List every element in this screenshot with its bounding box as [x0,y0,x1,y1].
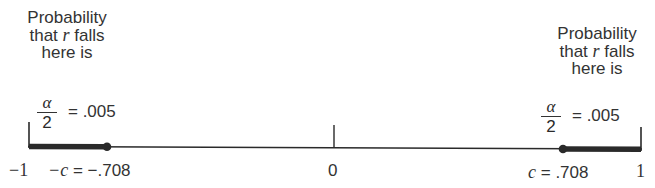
caption-word-that: that [29,26,57,45]
neg-c-value: = −.708 [73,161,131,180]
alpha-symbol: α [541,99,561,115]
variable-r: r [593,41,600,61]
right-critical-point [559,145,568,154]
alpha-symbol: α [37,95,57,111]
axis-line [28,147,642,150]
right-probability-value: = .005 [572,106,620,126]
left-probability-caption: Probability that r falls here is [12,9,122,62]
label-zero: 0 [328,161,337,181]
left-alpha-over-two: α 2 [37,95,57,131]
label-one: 1 [636,161,645,182]
c-variable: c [528,162,536,182]
caption-line-3: here is [12,44,122,62]
variable-r: r [63,25,70,45]
c-value: = .708 [541,163,589,182]
left-probability-value: = .005 [68,102,116,122]
right-alpha-over-two: α 2 [541,99,561,135]
caption-line-2: that r falls [12,27,122,45]
caption-word-falls: falls [74,26,104,45]
right-probability-caption: Probability that r falls here is [542,25,652,78]
caption-word-falls: falls [604,42,634,61]
denominator: 2 [541,118,561,135]
denominator: 2 [37,114,57,131]
caption-word-that: that [559,42,587,61]
caption-line-2: that r falls [542,43,652,61]
label-minus-c: −c = −.708 [48,160,131,181]
left-critical-point [103,143,112,152]
label-c: c = .708 [528,162,588,183]
label-minus-one: −1 [9,160,28,181]
caption-line-3: here is [542,60,652,78]
neg-c-variable: −c [48,160,68,180]
